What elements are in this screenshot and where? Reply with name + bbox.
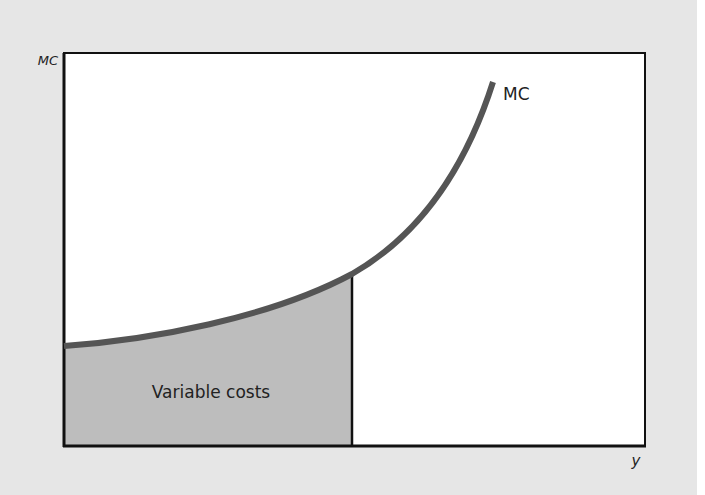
- y-axis-label: MC: [38, 53, 59, 68]
- curve-label: MC: [503, 84, 530, 104]
- x-axis-label: y: [631, 452, 642, 470]
- area-label: Variable costs: [152, 382, 271, 402]
- mc-chart: MC MC Variable costs y: [0, 0, 705, 495]
